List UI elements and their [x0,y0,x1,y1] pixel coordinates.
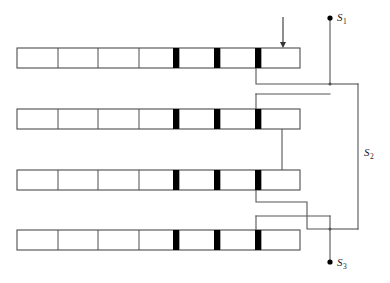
bar-1-marker-1 [173,48,179,68]
bar-3-marker-3 [255,170,261,190]
serpentine-sensor-diagram: S1S2S3 [0,0,390,283]
bar-3-marker-2 [214,170,220,190]
wire-bar1-to-s1-bus [256,68,330,84]
junction-s1-bus [329,83,332,86]
terminal-label-S2: S2 [364,146,374,161]
bar-4-marker-1 [173,230,179,250]
bar-row-1 [17,48,300,68]
wire-bar3-to-bus [256,190,330,229]
bar-3-marker-1 [173,170,179,190]
bar-2-marker-2 [214,109,220,129]
bar-1-marker-2 [214,48,220,68]
terminal-label-S1: S1 [337,11,347,26]
bar-row-4 [17,230,300,250]
bar-4-marker-3 [255,230,261,250]
terminal-subscript-S3: 3 [343,262,347,271]
input-arrow-group [280,17,286,48]
bar-row-3 [17,170,300,190]
junction-s3-bus [329,228,332,231]
terminal-label-S3: S3 [337,256,347,271]
bar-2-marker-1 [173,109,179,129]
terminal-dot-S3 [327,259,332,264]
bar-1-marker-3 [255,48,261,68]
bar-4-marker-2 [214,230,220,250]
input-arrow-head [280,42,286,48]
terminals-group: S1S2S3 [327,11,374,271]
bar-2-marker-3 [255,109,261,129]
bars-group [17,48,300,250]
terminal-subscript-S2: 2 [370,152,374,161]
figure-container: S1S2S3 [0,0,390,283]
terminal-dot-S1 [327,15,332,20]
terminal-subscript-S1: 1 [343,17,347,26]
bar-row-2 [17,109,300,129]
